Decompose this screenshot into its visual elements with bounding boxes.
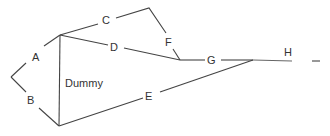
label-dummy: Dummy xyxy=(65,77,103,89)
edge-b-2 xyxy=(39,108,59,126)
label-e: E xyxy=(145,90,152,102)
label-g: G xyxy=(207,54,216,66)
edge-h xyxy=(253,60,292,61)
edge-d xyxy=(60,35,108,45)
edge-dummy xyxy=(59,35,60,126)
label-d: D xyxy=(110,41,118,53)
edge-c-2 xyxy=(116,8,166,33)
edge-b xyxy=(11,77,26,92)
label-a: A xyxy=(32,51,40,63)
edge-e xyxy=(59,98,143,126)
label-b: B xyxy=(27,94,34,106)
edge-d-2 xyxy=(124,48,180,60)
edge-a-2 xyxy=(44,35,60,46)
label-c: C xyxy=(102,14,110,26)
label-f: F xyxy=(165,36,172,48)
edge-a xyxy=(11,63,26,77)
network-diagram: A B C D E F G H Dummy xyxy=(0,0,330,136)
edge-c xyxy=(60,24,98,35)
label-h: H xyxy=(284,46,292,58)
